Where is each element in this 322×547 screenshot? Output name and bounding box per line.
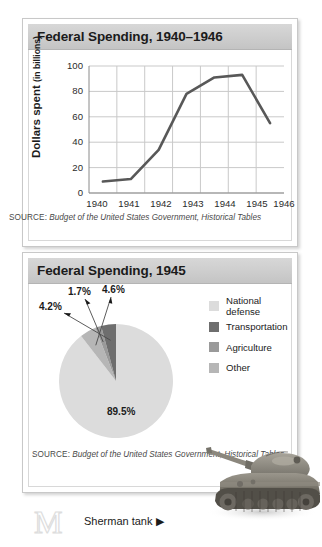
legend-label-national-defense: National defense: [226, 295, 297, 317]
legend-label-other: Other: [226, 362, 250, 373]
legend-item-agriculture: Agriculture: [209, 337, 297, 358]
line-chart-gridlines: [89, 66, 284, 193]
pie-slices: [59, 324, 173, 438]
line-chart-series: [103, 75, 270, 182]
legend-item-transportation: Transportation: [209, 317, 297, 338]
pie-label-agriculture: 1.7%: [68, 286, 91, 297]
line-chart-source: SOURCE: Budget of the United States Gove…: [9, 212, 316, 223]
decorative-letter-icon: M: [32, 503, 70, 539]
legend-item-other: Other: [209, 358, 297, 379]
pie-chart-source-label: SOURCE:: [32, 450, 70, 459]
legend-swatch-national-defense-icon: [209, 301, 219, 311]
line-chart-source-label: SOURCE:: [9, 213, 47, 222]
legend-item-national-defense: National defense: [209, 296, 297, 317]
line-chart-source-text: Budget of the United States Government, …: [49, 213, 261, 222]
sherman-tank-photo: [196, 432, 322, 522]
legend-swatch-other-icon: [209, 363, 219, 373]
decorative-letter-glyph: M: [34, 504, 62, 539]
legend-swatch-agriculture-icon: [209, 342, 219, 352]
figure-caption: Sherman tank ▶: [84, 515, 164, 528]
tank-track: [215, 488, 320, 512]
pie-label-transportation: 4.2%: [39, 301, 62, 312]
tank-gun-barrel: [206, 447, 258, 472]
legend-label-transportation: Transportation: [226, 321, 288, 332]
figure-page: Federal Spending, 1940–1946 Dollars spen…: [0, 0, 322, 547]
pie-label-national-defense: 89.5%: [107, 406, 135, 417]
legend-label-agriculture: Agriculture: [226, 342, 272, 353]
legend-swatch-transportation-icon: [209, 322, 219, 332]
pie-legend: National defense Transportation Agricult…: [209, 296, 297, 378]
pie-label-other: 4.6%: [102, 284, 125, 295]
